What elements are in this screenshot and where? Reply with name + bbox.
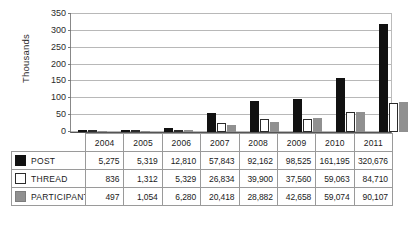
legend-swatch-icon-participant (15, 191, 26, 202)
bar-thread-2006 (174, 130, 183, 132)
cell-thread-2006: 5,329 (162, 170, 200, 188)
series-name-label: POST (31, 156, 55, 166)
cell-post-2007: 57,843 (201, 152, 239, 170)
chart-with-data-table: Thousands 050100150200250300350 20042005… (0, 0, 412, 233)
bar-group (286, 14, 329, 132)
table-header-row: 20042005200620072008200920102011 (12, 134, 393, 152)
y-axis-tick-label: 350 (24, 8, 66, 18)
cell-post-2010: 161,195 (316, 152, 354, 170)
y-axis-tick-label: 300 (24, 25, 66, 35)
plot-area: 050100150200250300350 (70, 13, 392, 133)
cell-post-2011: 320,676 (354, 152, 392, 170)
cell-post-2008: 92,162 (239, 152, 277, 170)
bar-thread-2004 (88, 130, 97, 132)
cell-participant-2008: 28,882 (239, 188, 277, 206)
bar-thread-2010 (346, 112, 355, 132)
bar-group (157, 14, 200, 132)
y-axis-tick-label: 150 (24, 75, 66, 85)
cell-participant-2009: 42,658 (277, 188, 315, 206)
bar-post-2004 (78, 130, 87, 132)
table-row: POST5,2755,31912,81057,84392,16298,52516… (12, 152, 393, 170)
cell-thread-2010: 59,063 (316, 170, 354, 188)
bar-post-2008 (250, 101, 259, 132)
column-header-2004: 2004 (86, 134, 124, 152)
table-corner-cell (12, 134, 86, 152)
bar-post-2007 (207, 113, 216, 133)
cell-post-2006: 12,810 (162, 152, 200, 170)
y-axis-tick-label: 50 (24, 109, 66, 119)
column-header-2007: 2007 (201, 134, 239, 152)
bar-thread-2011 (389, 103, 398, 132)
bar-post-2005 (121, 130, 130, 132)
series-legend-post: POST (12, 152, 86, 170)
bar-post-2010 (336, 78, 345, 132)
bar-groups (71, 14, 391, 132)
bar-group (71, 14, 114, 132)
cell-post-2004: 5,275 (86, 152, 124, 170)
series-legend-participant: PARTICIPANT (12, 188, 86, 206)
bar-participant-2006 (184, 130, 193, 132)
bar-thread-2005 (131, 130, 140, 132)
table-row: PARTICIPANT4971,0546,28020,41828,88242,6… (12, 188, 393, 206)
data-table: 20042005200620072008200920102011POST5,27… (11, 133, 393, 206)
cell-participant-2007: 20,418 (201, 188, 239, 206)
cell-thread-2004: 836 (86, 170, 124, 188)
bar-participant-2011 (399, 102, 408, 132)
column-header-2011: 2011 (354, 134, 392, 152)
cell-thread-2011: 84,710 (354, 170, 392, 188)
bar-participant-2010 (356, 112, 365, 132)
bar-participant-2005 (141, 131, 150, 132)
bar-group (329, 14, 372, 132)
cell-thread-2007: 26,834 (201, 170, 239, 188)
bar-thread-2007 (217, 123, 226, 132)
cell-participant-2010: 59,074 (316, 188, 354, 206)
column-header-2008: 2008 (239, 134, 277, 152)
cell-post-2005: 5,319 (124, 152, 162, 170)
cell-post-2009: 98,525 (277, 152, 315, 170)
bar-post-2009 (293, 99, 302, 132)
bar-group (114, 14, 157, 132)
column-header-2010: 2010 (316, 134, 354, 152)
legend-swatch-icon-thread (15, 173, 26, 184)
cell-thread-2009: 37,560 (277, 170, 315, 188)
bar-participant-2008 (270, 122, 279, 132)
cell-thread-2005: 1,312 (124, 170, 162, 188)
bar-thread-2008 (260, 119, 269, 132)
column-header-2006: 2006 (162, 134, 200, 152)
column-header-2005: 2005 (124, 134, 162, 152)
data-table-body: 20042005200620072008200920102011POST5,27… (12, 134, 393, 206)
series-legend-thread: THREAD (12, 170, 86, 188)
table-row: THREAD8361,3125,32926,83439,90037,56059,… (12, 170, 393, 188)
bar-participant-2009 (313, 118, 322, 132)
series-name-label: THREAD (31, 174, 68, 184)
bar-group (243, 14, 286, 132)
bar-post-2006 (164, 128, 173, 132)
cell-participant-2006: 6,280 (162, 188, 200, 206)
cell-participant-2011: 90,107 (354, 188, 392, 206)
bar-participant-2007 (227, 125, 236, 132)
y-axis-tick-label: 250 (24, 42, 66, 52)
series-name-label: PARTICIPANT (31, 192, 86, 202)
bar-participant-2004 (98, 131, 107, 132)
legend-swatch-icon-post (15, 155, 26, 166)
bar-group (200, 14, 243, 132)
column-header-2009: 2009 (277, 134, 315, 152)
bar-post-2011 (379, 24, 388, 132)
cell-participant-2004: 497 (86, 188, 124, 206)
y-axis-tick-label: 100 (24, 92, 66, 102)
cell-participant-2005: 1,054 (124, 188, 162, 206)
bar-thread-2009 (303, 119, 312, 132)
bar-group (372, 14, 412, 132)
cell-thread-2008: 39,900 (239, 170, 277, 188)
y-axis-tick-label: 200 (24, 59, 66, 69)
